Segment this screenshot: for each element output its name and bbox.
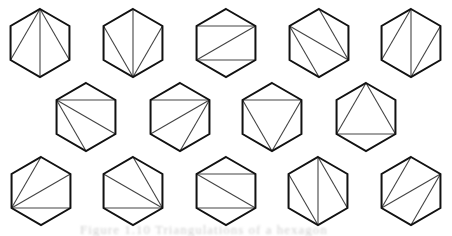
diagonal-line bbox=[290, 26, 349, 60]
hexagon-triangulation-3 bbox=[197, 9, 256, 77]
hexagon-triangulation-5 bbox=[382, 9, 441, 77]
hexagon-triangulation-13 bbox=[289, 157, 348, 225]
triangulation-figure bbox=[0, 0, 452, 236]
hexagon-triangulation-7 bbox=[151, 83, 210, 151]
hexagon-triangulation-4 bbox=[290, 9, 349, 77]
diagonal-line bbox=[104, 174, 163, 208]
diagonal-line bbox=[12, 174, 71, 208]
hexagon-triangulation-8 bbox=[243, 83, 302, 151]
hexagon-outline bbox=[337, 83, 396, 151]
hexagon-triangulation-2 bbox=[104, 9, 163, 77]
diagonal-line bbox=[151, 100, 210, 134]
hexagon-triangulation-10 bbox=[12, 157, 71, 225]
hexagon-triangulation-6 bbox=[57, 83, 116, 151]
figure-caption: Figure 1.10 Triangulations of a hexagon bbox=[80, 222, 380, 236]
diagonal-line bbox=[197, 174, 256, 208]
hexagon-triangulation-9 bbox=[337, 83, 396, 151]
diagonal-line bbox=[382, 174, 441, 208]
diagonal-line bbox=[57, 100, 116, 134]
hexagon-triangulation-12 bbox=[197, 157, 256, 225]
hexagon-outline bbox=[243, 83, 302, 151]
hexagon-triangulation-14 bbox=[382, 157, 441, 225]
diagonal-line bbox=[197, 26, 256, 60]
hexagon-triangulation-1 bbox=[11, 9, 70, 77]
hexagon-triangulation-11 bbox=[104, 157, 163, 225]
